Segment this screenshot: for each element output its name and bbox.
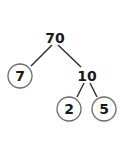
factor-tree-diagram: 70 7 10 2 5 [0,0,136,141]
node-2-label: 2 [64,101,74,117]
node-7-label: 7 [15,68,25,84]
node-5: 5 [92,97,116,121]
node-70-label: 70 [45,30,65,46]
node-7: 7 [8,64,32,88]
node-5-label: 5 [99,101,109,117]
edge-10-to-5 [90,83,97,97]
node-2: 2 [57,97,81,121]
edge-10-to-2 [77,83,84,97]
node-10-label: 10 [77,68,97,84]
edge-70-to-7 [31,45,52,66]
edge-70-to-10 [58,45,81,67]
